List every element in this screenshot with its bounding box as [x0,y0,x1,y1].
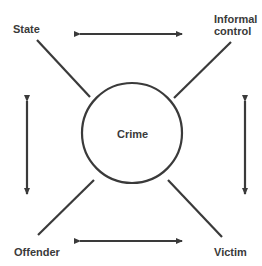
label-informal-control: Informal control [214,13,257,37]
label-state: State [13,23,40,35]
label-offender: Offender [14,246,60,258]
label-control: control [214,25,257,37]
label-crime: Crime [117,128,148,140]
offender-connector [38,180,94,235]
informal-control-connector [174,42,231,98]
victim-connector [168,180,222,237]
label-victim: Victim [214,246,247,258]
label-informal: Informal [214,13,257,25]
state-connector [37,40,90,97]
